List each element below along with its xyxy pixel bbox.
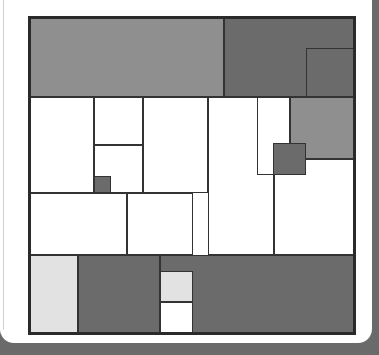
tile-mid-upper-white[interactable] — [94, 97, 143, 145]
card-edge — [3, 0, 4, 330]
tile-row3-mid-white[interactable] — [127, 193, 193, 255]
tile-overlap-dark[interactable] — [273, 143, 306, 175]
tile-row3-left-white[interactable] — [28, 193, 127, 255]
tile-bottom-dark-left[interactable] — [78, 255, 160, 335]
tile-tall-white-a[interactable] — [143, 97, 208, 193]
tile-small-dark-square[interactable] — [94, 176, 111, 193]
tile-stack-white[interactable] — [160, 302, 193, 335]
tile-mid-left-white[interactable] — [28, 97, 94, 193]
tile-stack-light[interactable] — [160, 271, 193, 302]
tile-bottom-light[interactable] — [28, 255, 78, 335]
tile-top-right-inner[interactable] — [306, 48, 356, 97]
tile-top-left-gray[interactable] — [28, 16, 224, 97]
